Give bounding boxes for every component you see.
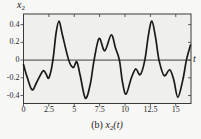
y-tick-label: 0 bbox=[0, 55, 20, 65]
y-axis-label-subscript: 2 bbox=[21, 4, 25, 12]
x-tick-label: 7.5 bbox=[95, 105, 105, 114]
x-tick-label: 10 bbox=[121, 105, 129, 114]
x-tick-label: 5 bbox=[72, 105, 76, 114]
y-tick-label: 0.2 bbox=[0, 37, 20, 47]
caption-prefix: (b) bbox=[91, 119, 105, 130]
figure-caption: (b) x2(t) bbox=[23, 119, 191, 134]
y-tick-label: 0.4 bbox=[0, 20, 20, 30]
x-tick-label: 2.5 bbox=[44, 105, 54, 114]
x-tick-label: 0 bbox=[22, 105, 26, 114]
y-tick-label: -0.2 bbox=[0, 73, 20, 83]
x-tick-label: 12.5 bbox=[143, 105, 157, 114]
x-tick-label: 15 bbox=[172, 105, 180, 114]
y-tick-label: -0.4 bbox=[0, 91, 20, 101]
figure-x2-plot: 02.557.51012.515-0.4-0.200.20.4 x2 t (b)… bbox=[0, 0, 201, 139]
x-axis-label: t bbox=[193, 54, 196, 63]
caption-suffix: (t) bbox=[113, 119, 122, 130]
y-axis-label: x2 bbox=[17, 0, 25, 13]
